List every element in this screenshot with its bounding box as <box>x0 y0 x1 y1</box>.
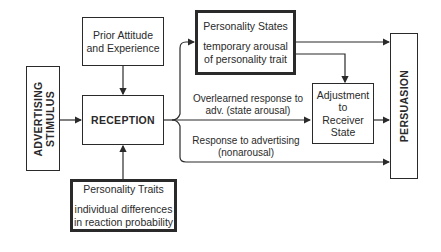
advertising-stimulus-box: ADVERTISING STIMULUS <box>26 66 60 171</box>
prior-attitude-box: Prior Attitude and Experience <box>82 17 164 66</box>
nonarousal-response-label: Response to advertising (nonarousal) <box>186 135 306 159</box>
advertising-stimulus-label: ADVERTISING STIMULUS <box>31 66 55 171</box>
reception-box: RECEPTION <box>82 95 164 145</box>
persuasion-label: PERSUASION <box>398 33 410 179</box>
personality-traits-box: Personality Traits individual difference… <box>70 179 177 232</box>
persuasion-box: PERSUASION <box>390 33 418 179</box>
overlearned-response-label: Overlearned response to adv. (state arou… <box>188 93 308 117</box>
adjustment-box: Adjustment to Receiver State <box>312 83 374 144</box>
personality-states-box: Personality States temporary arousal of … <box>195 10 296 75</box>
